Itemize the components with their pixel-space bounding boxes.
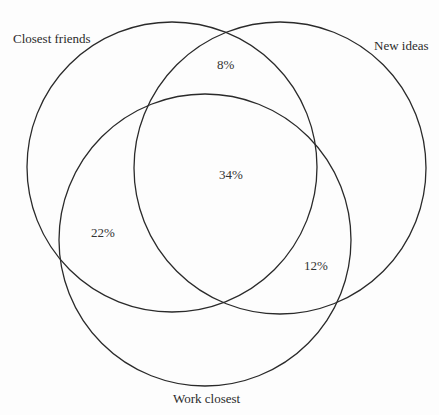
label-work-closest: Work closest: [173, 391, 240, 407]
region-friends-work-value: 22%: [91, 225, 115, 241]
region-ideas-work-value: 12%: [304, 258, 328, 274]
region-friends-ideas-value: 8%: [217, 57, 234, 73]
region-all-three-value: 34%: [219, 167, 243, 183]
circle-new-ideas: [134, 22, 426, 314]
label-closest-friends: Closest friends: [13, 31, 91, 47]
circle-closest-friends: [27, 22, 317, 312]
label-new-ideas: New ideas: [374, 38, 429, 54]
